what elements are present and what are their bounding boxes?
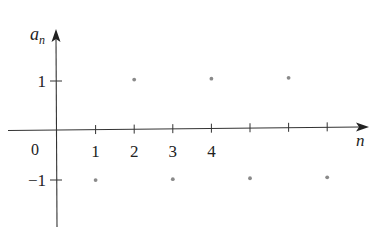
x-tick-label: 1 xyxy=(91,142,100,161)
y-axis xyxy=(56,38,57,227)
x-tick-label: 2 xyxy=(130,142,139,161)
sequence-plot: 1234 1−1 0 n an xyxy=(0,0,385,245)
x-tick-label: 3 xyxy=(169,142,178,161)
data-point xyxy=(210,77,214,81)
data-point xyxy=(248,176,252,180)
x-axis-label: n xyxy=(356,131,365,150)
axes xyxy=(8,29,369,227)
y-tick-label: 1 xyxy=(38,72,47,91)
data-point xyxy=(325,175,329,179)
data-point xyxy=(287,76,291,80)
data-point xyxy=(132,78,136,82)
y-tick-label: −1 xyxy=(28,171,46,190)
y-axis-label-sub: n xyxy=(39,33,45,47)
y-axis-label: an xyxy=(30,24,45,47)
axis-labels: 0 n an xyxy=(30,24,365,158)
origin-label: 0 xyxy=(31,141,39,158)
data-point xyxy=(171,177,175,181)
data-point xyxy=(94,178,98,182)
y-axis-label-main: a xyxy=(30,24,39,44)
chart-canvas: 1234 1−1 0 n an xyxy=(0,0,385,245)
x-axis xyxy=(8,127,360,131)
x-tick-label: 4 xyxy=(207,142,216,161)
